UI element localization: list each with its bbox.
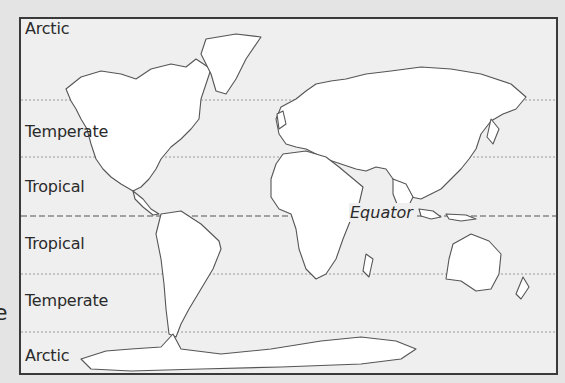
zone-label-tropical-north: Tropical [25, 177, 85, 196]
equator-label: Equator [349, 203, 414, 222]
zone-label-arctic-south: Arctic [25, 346, 69, 365]
zone-label-arctic-north: Arctic [25, 19, 69, 38]
australia [446, 234, 501, 291]
zone-label-temperate-north: Temperate [25, 122, 108, 141]
map-graphic [21, 19, 556, 373]
zone-label-temperate-south: Temperate [25, 291, 108, 310]
antarctica [81, 334, 416, 371]
cropped-text-fragment: e [0, 300, 8, 325]
south-america [156, 211, 221, 337]
world-map: Arctic Temperate Tropical Tropical Tempe… [19, 17, 558, 375]
zone-label-tropical-south: Tropical [25, 234, 85, 253]
greenland [201, 34, 261, 94]
